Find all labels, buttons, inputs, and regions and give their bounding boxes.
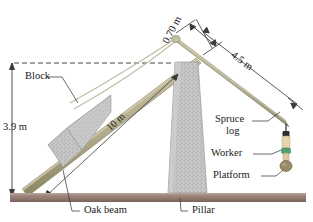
callout-label-platform: Platform <box>213 169 250 180</box>
pillar <box>168 62 207 193</box>
callout-label-log: log <box>226 125 239 136</box>
leader-block <box>46 77 78 103</box>
callout-label-pillar: Pillar <box>192 204 215 215</box>
callout-label-oak-beam: Oak beam <box>84 204 127 215</box>
ground <box>10 193 306 202</box>
rope-group <box>70 39 176 109</box>
callout-label-spruce: Spruce <box>215 113 244 124</box>
platform <box>280 161 292 172</box>
diagram-canvas <box>0 0 313 222</box>
callout-label-block: Block <box>25 70 50 81</box>
worker <box>282 136 291 162</box>
leader-oakbeam <box>63 170 80 211</box>
dimension-label-3-9m: 3.9 m <box>3 121 27 132</box>
physics-diagram: 0.70 m 4.5 m 10 m 3.9 m Block Oak beam P… <box>0 0 313 222</box>
leader-platform <box>261 170 283 176</box>
rope-lower <box>74 41 176 109</box>
callout-label-worker: Worker <box>211 147 242 158</box>
leader-worker <box>253 150 281 154</box>
